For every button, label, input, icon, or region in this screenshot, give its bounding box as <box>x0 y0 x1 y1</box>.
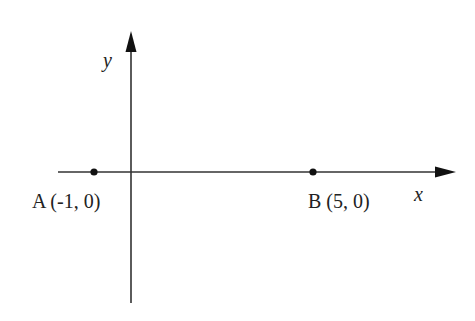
x-axis-label: x <box>413 183 423 205</box>
x-axis-arrowhead-icon <box>435 167 456 178</box>
y-axis-label: y <box>101 49 112 72</box>
y-axis-arrowhead-icon <box>126 31 137 52</box>
point-b-label: B (5, 0) <box>308 190 370 213</box>
coordinate-plane: y x A (-1, 0) B (5, 0) <box>0 0 475 321</box>
point-b <box>309 168 316 175</box>
point-a-label: A (-1, 0) <box>32 190 100 213</box>
point-a <box>90 168 97 175</box>
